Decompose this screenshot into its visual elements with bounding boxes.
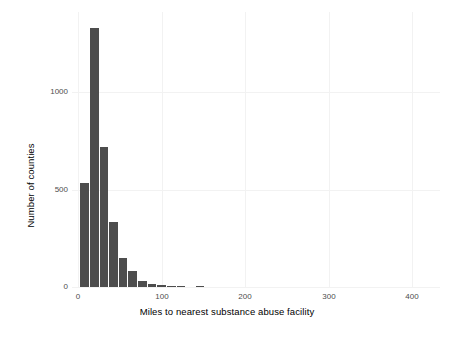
x-tick-label-100: 100 bbox=[142, 292, 182, 301]
x-tick-label-400: 400 bbox=[392, 292, 432, 301]
histogram-chart: Number of counties 0 500 1000 0 100 200 … bbox=[0, 0, 454, 346]
histogram-bar bbox=[119, 258, 128, 287]
x-tick-label-300: 300 bbox=[309, 292, 349, 301]
histogram-bar bbox=[157, 285, 166, 287]
x-tick-label-200: 200 bbox=[225, 292, 265, 301]
plot-panel bbox=[72, 12, 440, 288]
histogram-bar bbox=[109, 222, 118, 287]
histogram-bar bbox=[148, 284, 157, 287]
histogram-bar bbox=[138, 281, 147, 287]
histogram-bar bbox=[100, 147, 109, 287]
y-tick-label-1000: 1000 bbox=[28, 88, 68, 96]
y-tick-label-0: 0 bbox=[28, 283, 68, 291]
x-axis-title: Miles to nearest substance abuse facilit… bbox=[0, 306, 454, 317]
histogram-bar bbox=[196, 286, 205, 287]
x-tick-label-0: 0 bbox=[58, 292, 98, 301]
histogram-bar bbox=[80, 183, 89, 287]
histogram-bar bbox=[90, 28, 99, 287]
x-axis-ticks: 0 100 200 300 400 bbox=[72, 292, 440, 306]
histogram-bar bbox=[177, 286, 186, 287]
histogram-bar bbox=[167, 286, 176, 287]
y-tick-label-500: 500 bbox=[28, 186, 68, 194]
histogram-bar bbox=[128, 271, 137, 287]
bars-layer bbox=[72, 12, 440, 288]
